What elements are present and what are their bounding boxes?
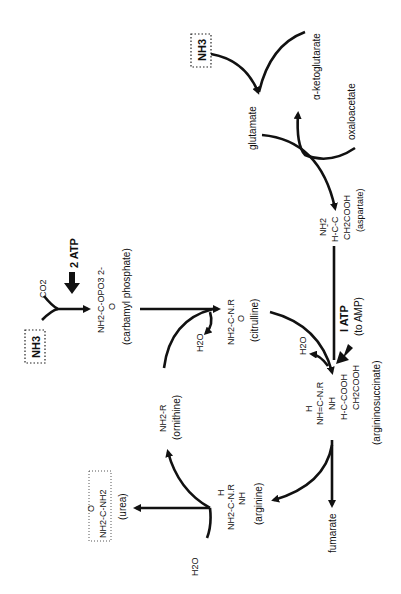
co2-label: CO2 bbox=[38, 279, 48, 298]
atp-argsucc-bold-arrow bbox=[336, 344, 353, 364]
svg-text:H: H bbox=[304, 406, 314, 413]
svg-text:CH2COOH: CH2COOH bbox=[342, 195, 352, 240]
svg-text:(arginine): (arginine) bbox=[253, 483, 264, 525]
svg-text:NH: NH bbox=[327, 397, 337, 410]
svg-text:NH=C-N.R: NH=C-N.R bbox=[315, 381, 325, 425]
svg-text:NH2-C-N.R: NH2-C-N.R bbox=[226, 299, 236, 345]
ammonia-to-glutamate-arrow bbox=[211, 54, 258, 92]
ketoglutarate-arrow bbox=[259, 32, 305, 92]
svg-text:O: O bbox=[236, 315, 246, 322]
svg-text:(aspartate): (aspartate) bbox=[355, 188, 365, 232]
water-out-arrow bbox=[206, 312, 211, 333]
svg-text:H-C-C: H-C-C bbox=[330, 216, 340, 242]
svg-text:NH: NH bbox=[237, 492, 247, 505]
svg-text:NH2-C-NH2: NH2-C-NH2 bbox=[98, 489, 108, 538]
svg-text:O: O bbox=[107, 303, 117, 310]
svg-text:O: O bbox=[86, 505, 96, 512]
water-in-urea-line bbox=[207, 508, 211, 538]
ammonia-left-box: NH3 bbox=[25, 330, 45, 363]
svg-text:(carbamyl phosphate): (carbamyl phosphate) bbox=[121, 248, 132, 345]
svg-text:NH2-C-N.R: NH2-C-N.R bbox=[226, 484, 236, 530]
ornithine-structure: NH2-R (ornithine) bbox=[158, 395, 182, 440]
alpha-ketoglutarate-label: α-ketoglutarate bbox=[311, 33, 322, 100]
fumarate-label: fumarate bbox=[327, 513, 338, 553]
svg-text:CH2COOH: CH2COOH bbox=[351, 365, 361, 410]
arginine-to-ornithine-arrow bbox=[168, 452, 210, 508]
water-citrulline-label: H2O bbox=[195, 333, 205, 352]
oxaloacetate-label: oxaloacetate bbox=[346, 83, 357, 140]
carbamyl-phosphate-structure: NH2-C-OPO3 2- O (carbamyl phosphate) bbox=[96, 248, 132, 345]
svg-text:(citrulline): (citrulline) bbox=[249, 299, 260, 342]
argsucc-to-arginine-arrow bbox=[274, 445, 332, 500]
svg-text:H-C-COOH: H-C-COOH bbox=[339, 374, 349, 420]
arginine-structure: H NH2-C-N.R NH (arginine) bbox=[216, 483, 264, 530]
co2-to-carbamyl-arrow bbox=[44, 296, 88, 309]
svg-text:NH3: NH3 bbox=[196, 39, 208, 61]
urea-structure: O NH2-C-NH2 (urea) bbox=[86, 471, 128, 541]
glutamate-to-aspartate-arrow bbox=[262, 135, 335, 208]
one-atp-label: I ATP bbox=[338, 305, 350, 332]
svg-text:NH2-C-OPO3 2-: NH2-C-OPO3 2- bbox=[96, 267, 106, 333]
to-amp-label: (to AMP) bbox=[353, 297, 364, 336]
svg-text:H: H bbox=[216, 490, 226, 497]
argininosuccinate-structure: H NH=C-N.R NH H-C-COOH CH2COOH (arginino… bbox=[304, 361, 382, 446]
svg-text:(ornithine): (ornithine) bbox=[171, 395, 182, 440]
svg-text:(urea): (urea) bbox=[117, 493, 128, 520]
citrulline-structure: NH2-C-N.R O (citrulline) bbox=[226, 299, 260, 345]
aspartate-structure: NH2 - H-C-C CH2COOH (aspartate) bbox=[318, 188, 365, 242]
water-urea-label: H2O bbox=[190, 557, 200, 576]
two-atp-label: 2 ATP bbox=[68, 238, 80, 268]
ornithine-to-citrulline-arc bbox=[164, 309, 213, 368]
glutamate-label: glutamate bbox=[247, 106, 258, 150]
svg-text:NH3: NH3 bbox=[30, 336, 42, 358]
atp-bold-arrow bbox=[64, 272, 80, 294]
ammonia-top-box: NH3 bbox=[191, 34, 211, 67]
ammonia-branch bbox=[42, 309, 58, 320]
urea-cycle-diagram: NH3 α-ketoglutarate glutamate oxaloaceta… bbox=[0, 0, 401, 594]
svg-text:(argininosuccinate): (argininosuccinate) bbox=[371, 361, 382, 446]
water-argsucc-label: H2O bbox=[298, 336, 308, 355]
svg-text:NH2-R: NH2-R bbox=[158, 404, 168, 432]
